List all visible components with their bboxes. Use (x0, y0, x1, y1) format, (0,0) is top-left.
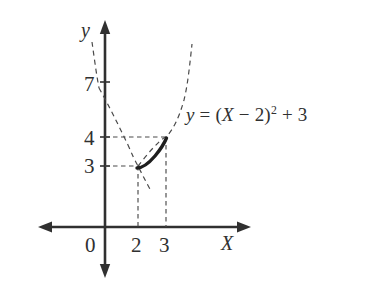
y-axis-bottom-arrowhead (100, 264, 110, 278)
x-axis-label: X (221, 233, 233, 253)
parabola-figure: y X 7 4 3 0 2 3 y = (X − 2)2 + 3 (0, 0, 370, 298)
y-tick-label-7: 7 (84, 74, 95, 95)
equation-equals: = (200, 104, 211, 125)
parabola-solid-segment (137, 138, 167, 168)
y-axis-top-arrowhead (100, 20, 110, 34)
equation-lhs: y (186, 104, 195, 125)
x-axis (38, 222, 251, 233)
x-axis-right-arrowhead (237, 222, 251, 233)
coordinate-plot (0, 0, 370, 298)
y-tick-label-4: 4 (84, 128, 95, 149)
equation-variable: X (222, 104, 234, 125)
parabola-dashed-curve (99, 44, 192, 191)
x-axis-left-arrowhead (38, 222, 52, 233)
equation-shift: 2 (255, 104, 265, 125)
equation-minus: − (239, 104, 250, 125)
y-axis (100, 20, 110, 278)
x-tick-label-3: 3 (159, 235, 170, 256)
x-tick-label-2: 2 (131, 235, 142, 256)
y-tick-label-3: 3 (84, 156, 95, 177)
x-tick-label-0: 0 (85, 235, 96, 256)
y-axis-label: y (81, 20, 90, 40)
equation-annotation: y = (X − 2)2 + 3 (186, 105, 308, 124)
equation-plus: + (282, 104, 293, 125)
equation-constant: 3 (298, 104, 308, 125)
